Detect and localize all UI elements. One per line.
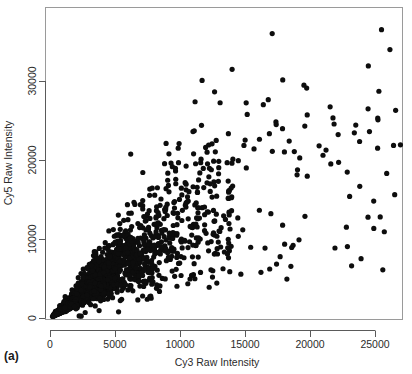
data-point xyxy=(190,242,195,247)
data-point xyxy=(81,300,86,305)
data-point xyxy=(192,99,197,104)
data-point xyxy=(63,305,68,310)
data-point xyxy=(165,171,170,176)
data-point xyxy=(113,266,118,271)
data-point xyxy=(201,185,206,190)
data-point xyxy=(262,245,267,250)
data-point xyxy=(147,193,152,198)
data-point xyxy=(143,218,148,223)
data-point xyxy=(207,166,212,171)
data-point xyxy=(125,202,130,207)
x-tick-label: 10000 xyxy=(165,338,194,350)
data-point xyxy=(203,145,208,150)
data-point xyxy=(150,186,155,191)
data-point xyxy=(116,212,121,217)
y-tick-label: 0 xyxy=(26,315,38,321)
data-point xyxy=(208,181,213,186)
data-point xyxy=(141,284,146,289)
data-point xyxy=(97,259,102,264)
data-point xyxy=(193,222,198,227)
data-point xyxy=(74,291,79,296)
data-point xyxy=(106,260,111,265)
data-point xyxy=(270,149,275,154)
data-point xyxy=(205,161,210,166)
data-point xyxy=(216,239,221,244)
data-point xyxy=(196,254,201,259)
data-point xyxy=(216,165,221,170)
data-point xyxy=(119,288,124,293)
data-point xyxy=(158,196,163,201)
data-point xyxy=(244,100,249,105)
data-point xyxy=(257,208,262,213)
data-point xyxy=(358,256,363,261)
data-point xyxy=(130,260,135,265)
data-point xyxy=(214,234,219,239)
data-point xyxy=(328,104,333,109)
data-point xyxy=(229,185,234,190)
data-point xyxy=(117,259,122,264)
data-point xyxy=(336,132,341,137)
data-point xyxy=(376,89,381,94)
data-point xyxy=(123,245,128,250)
data-point xyxy=(208,189,213,194)
data-point xyxy=(128,152,133,157)
data-point xyxy=(212,251,217,256)
data-point xyxy=(174,267,179,272)
data-point xyxy=(180,245,185,250)
data-point xyxy=(171,210,176,215)
data-point xyxy=(190,184,195,189)
data-point xyxy=(297,155,302,160)
scatter-plot: 0100002000030000 Cy5 Raw Intensity 05000… xyxy=(0,0,412,374)
data-point xyxy=(91,289,96,294)
data-point xyxy=(141,214,146,219)
data-point xyxy=(150,275,155,280)
data-point xyxy=(153,234,158,239)
data-point xyxy=(387,47,392,52)
data-point xyxy=(97,308,102,313)
data-point xyxy=(110,295,115,300)
data-point xyxy=(147,216,152,221)
data-point xyxy=(284,277,289,282)
data-point xyxy=(212,218,217,223)
data-point xyxy=(398,142,403,147)
data-point xyxy=(317,143,322,148)
data-point xyxy=(302,123,307,128)
data-point xyxy=(280,126,285,131)
data-point xyxy=(365,106,370,111)
data-point xyxy=(128,286,133,291)
data-point xyxy=(168,160,173,165)
data-point xyxy=(206,174,211,179)
data-point xyxy=(375,117,380,122)
data-point xyxy=(172,274,177,279)
data-point xyxy=(148,293,153,298)
data-point xyxy=(379,27,384,32)
data-point xyxy=(274,261,279,266)
data-point xyxy=(142,279,147,284)
x-tick-label: 5000 xyxy=(103,338,127,350)
data-point xyxy=(125,217,130,222)
data-point xyxy=(97,296,102,301)
data-point xyxy=(163,276,168,281)
data-point xyxy=(248,245,253,250)
data-point xyxy=(320,153,325,158)
data-point xyxy=(140,273,145,278)
figure-panel: 0100002000030000 Cy5 Raw Intensity 05000… xyxy=(0,0,412,374)
data-point xyxy=(169,245,174,250)
data-point xyxy=(152,193,157,198)
data-point xyxy=(177,197,182,202)
data-point xyxy=(77,313,82,318)
data-point xyxy=(149,270,154,275)
data-point xyxy=(301,83,306,88)
data-point xyxy=(85,293,90,298)
data-point xyxy=(291,243,296,248)
data-point xyxy=(353,122,358,127)
data-point xyxy=(118,227,123,232)
data-point xyxy=(296,237,301,242)
data-point xyxy=(214,138,219,143)
data-point xyxy=(103,240,108,245)
data-point xyxy=(152,222,157,227)
data-point xyxy=(189,232,194,237)
data-point xyxy=(212,89,217,94)
data-point xyxy=(140,206,145,211)
data-point xyxy=(367,129,372,134)
